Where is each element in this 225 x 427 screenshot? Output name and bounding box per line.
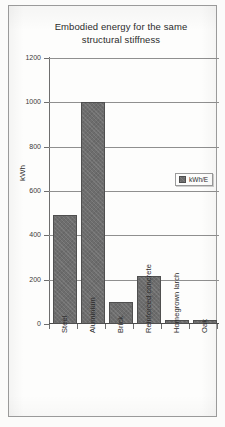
chart-figure: Embodied energy for the same structural … <box>0 0 225 427</box>
legend-label-kwh-e: kWh/E <box>189 176 208 183</box>
gridline-1000 <box>49 102 219 103</box>
x-tick-6 <box>217 324 218 329</box>
gridline-1200 <box>49 58 219 59</box>
gridline-800 <box>49 147 219 148</box>
x-tick-2 <box>105 324 106 329</box>
figure-border: Embodied energy for the same structural … <box>8 5 217 417</box>
y-tick-label-200: 200 <box>11 276 41 283</box>
chart-title-line-1: Embodied energy for the same <box>23 20 219 33</box>
gridline-600 <box>49 191 219 192</box>
y-tick-label-600: 600 <box>11 187 41 194</box>
y-tick-label-0: 0 <box>11 320 41 327</box>
y-tick-label-1200: 1200 <box>11 54 41 61</box>
x-tick-3 <box>133 324 134 329</box>
x-tick-5 <box>189 324 190 329</box>
legend-swatch-icon <box>179 176 186 183</box>
x-label-homegrown-larch: Homegrown larch <box>172 273 181 333</box>
x-label-brick: Brick <box>116 316 125 333</box>
bar-steel <box>53 215 77 324</box>
y-tick-label-800: 800 <box>11 143 41 150</box>
chart-legend: kWh/E <box>175 173 213 186</box>
x-label-aluminium: Aluminium <box>88 297 97 333</box>
x-tick-0 <box>49 324 50 329</box>
x-label-steel: Steel <box>60 315 69 333</box>
bar-aluminium <box>81 102 105 324</box>
chart-title: Embodied energy for the same structural … <box>23 20 219 46</box>
x-label-oak: Oak <box>200 319 209 333</box>
x-label-reinforced-concrete: Reinforced concrete <box>144 264 153 333</box>
y-axis-label: kWh <box>18 165 27 181</box>
x-tick-1 <box>77 324 78 329</box>
y-tick-label-1000: 1000 <box>11 98 41 105</box>
y-tick-label-400: 400 <box>11 231 41 238</box>
chart-title-line-2: structural stiffness <box>23 33 219 46</box>
x-tick-4 <box>161 324 162 329</box>
plot-area <box>49 58 219 324</box>
